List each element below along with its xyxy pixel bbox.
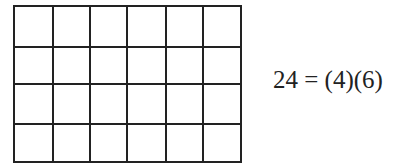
area-equation: 24 = (4)(6) [273, 67, 383, 92]
grid-diagram [0, 0, 260, 166]
